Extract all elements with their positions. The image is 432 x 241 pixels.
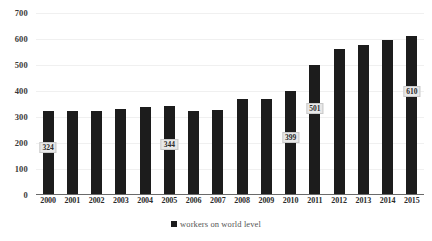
x-axis-tick-label: 2014 <box>376 196 400 212</box>
x-axis: 2000200120022003200420052006200720082009… <box>36 196 424 212</box>
y-axis-tick-label: 400 <box>15 86 28 96</box>
x-axis-tick-label: 2006 <box>182 196 206 212</box>
bar-value-label: 344 <box>161 139 178 150</box>
y-axis-tick-label: 0 <box>24 190 28 200</box>
bar-series: 324344399501610 <box>36 13 424 195</box>
bar-slot <box>182 13 206 195</box>
x-axis-tick-label: 2011 <box>303 196 327 212</box>
y-axis-tick-label: 300 <box>15 112 28 122</box>
y-axis-tick-label: 700 <box>15 8 28 18</box>
x-axis-tick-label: 2002 <box>85 196 109 212</box>
x-axis-tick-label: 2010 <box>279 196 303 212</box>
bar-slot <box>206 13 230 195</box>
bar-chart: 0100200300400500600700 324344399501610 2… <box>0 0 432 241</box>
bar[interactable] <box>261 99 272 195</box>
bar-value-label: 501 <box>306 103 323 114</box>
bar-slot: 610 <box>400 13 424 195</box>
x-axis-tick-label: 2004 <box>133 196 157 212</box>
chart-legend: workers on world level <box>0 219 432 229</box>
y-axis-tick-label: 200 <box>15 138 28 148</box>
bar-value-label: 324 <box>40 142 57 153</box>
legend-swatch-icon <box>171 221 177 227</box>
bar-slot <box>254 13 278 195</box>
plot-area: 324344399501610 <box>36 13 424 195</box>
bar[interactable]: 399 <box>285 91 296 195</box>
bar-slot: 501 <box>303 13 327 195</box>
bar-value-label: 399 <box>282 132 299 143</box>
y-axis: 0100200300400500600700 <box>0 13 32 195</box>
legend-item[interactable]: workers on world level <box>171 219 261 229</box>
x-axis-tick-label: 2005 <box>157 196 181 212</box>
bar-value-label: 610 <box>403 86 420 97</box>
bar[interactable]: 344 <box>164 106 175 195</box>
bar-slot <box>109 13 133 195</box>
y-axis-tick-label: 500 <box>15 60 28 70</box>
legend-label: workers on world level <box>180 219 261 229</box>
bar[interactable]: 324 <box>43 111 54 195</box>
bar[interactable] <box>334 49 345 195</box>
bar[interactable] <box>140 107 151 195</box>
bar-slot <box>230 13 254 195</box>
bar-slot <box>133 13 157 195</box>
x-axis-tick-label: 2000 <box>36 196 60 212</box>
x-axis-tick-label: 2015 <box>400 196 424 212</box>
bar-slot <box>85 13 109 195</box>
x-axis-tick-label: 2003 <box>109 196 133 212</box>
bar-slot <box>60 13 84 195</box>
bar[interactable] <box>91 111 102 195</box>
x-axis-tick-label: 2009 <box>254 196 278 212</box>
bar[interactable]: 610 <box>406 36 417 195</box>
x-axis-tick-label: 2013 <box>351 196 375 212</box>
bar[interactable] <box>67 111 78 195</box>
x-axis-line <box>36 194 424 195</box>
bar[interactable] <box>358 45 369 195</box>
x-axis-tick-label: 2007 <box>206 196 230 212</box>
x-axis-tick-label: 2012 <box>327 196 351 212</box>
bar-slot <box>351 13 375 195</box>
bar-slot <box>327 13 351 195</box>
bar[interactable] <box>188 111 199 195</box>
y-axis-tick-label: 100 <box>15 164 28 174</box>
bar[interactable] <box>382 40 393 195</box>
x-axis-tick-label: 2001 <box>60 196 84 212</box>
x-axis-tick-label: 2008 <box>230 196 254 212</box>
bar-slot: 344 <box>157 13 181 195</box>
bar[interactable] <box>212 110 223 195</box>
bar[interactable]: 501 <box>309 65 320 195</box>
bar-slot: 399 <box>279 13 303 195</box>
bar-slot <box>376 13 400 195</box>
y-axis-tick-label: 600 <box>15 34 28 44</box>
bar-slot: 324 <box>36 13 60 195</box>
bar[interactable] <box>237 99 248 195</box>
bar[interactable] <box>115 109 126 195</box>
